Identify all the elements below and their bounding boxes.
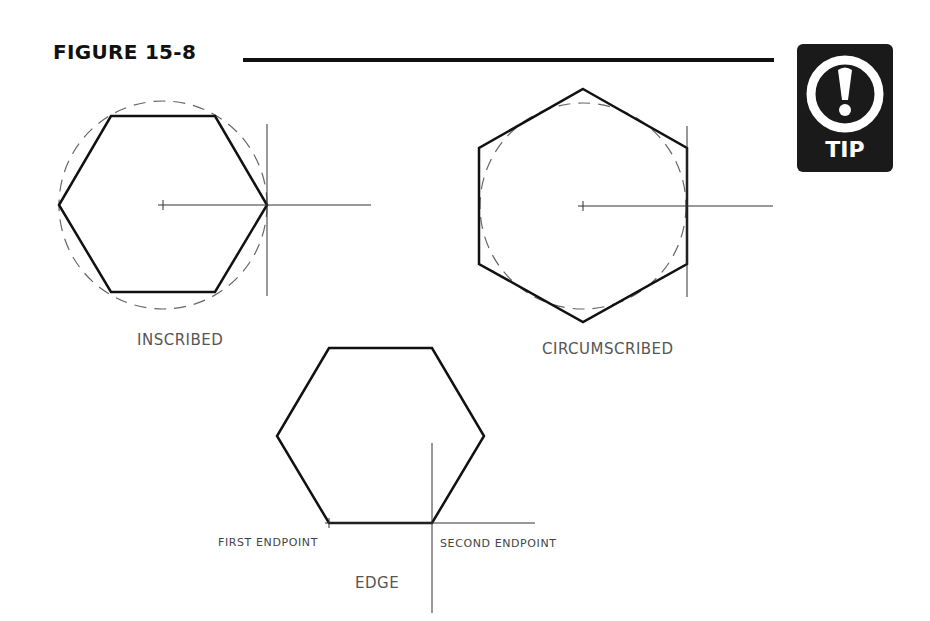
edge-diagram [277,348,535,613]
inscribed-diagram [59,101,371,309]
edge-hexagon [277,348,484,523]
polygon-drawings [0,0,930,621]
edge-label: EDGE [355,574,399,592]
inscribed-label: INSCRIBED [137,331,223,349]
first-endpoint-label: FIRST ENDPOINT [218,536,318,549]
circumscribed-label: CIRCUMSCRIBED [542,340,674,358]
circumscribed-diagram [479,89,773,322]
second-endpoint-label: SECOND ENDPOINT [440,537,557,550]
